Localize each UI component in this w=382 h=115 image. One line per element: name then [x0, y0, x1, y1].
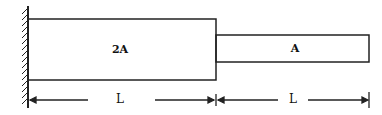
large-segment-area-label: 2A	[100, 43, 140, 56]
small-segment-area-label: A	[280, 42, 310, 55]
small-segment-length-label: L	[283, 92, 303, 106]
large-segment-length-label: L	[110, 92, 130, 106]
dimension-lines	[30, 92, 369, 108]
fixed-wall-support	[22, 6, 28, 108]
stepped-bar-diagram	[0, 0, 382, 115]
